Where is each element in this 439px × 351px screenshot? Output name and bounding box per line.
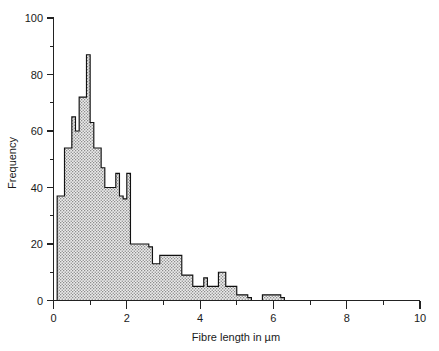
x-tick-label-8: 8 [344, 312, 350, 324]
x-tick-label-10: 10 [414, 312, 426, 324]
y-tick-label-0: 0 [37, 295, 43, 307]
x-tick-label-4: 4 [197, 312, 203, 324]
chart-svg: 020406080100 0246810 Fibre length in µm … [0, 0, 439, 351]
x-axis-label: Fibre length in µm [192, 331, 280, 343]
y-tick-label-100: 100 [25, 12, 43, 24]
x-tick-label-0: 0 [50, 312, 56, 324]
y-tick-label-60: 60 [31, 125, 43, 137]
x-tick-label-6: 6 [270, 312, 276, 324]
x-tick-label-2: 2 [124, 312, 130, 324]
y-axis-label: Frequency [6, 137, 18, 189]
y-tick-label-40: 40 [31, 182, 43, 194]
y-tick-label-80: 80 [31, 69, 43, 81]
histogram-chart: 020406080100 0246810 Fibre length in µm … [0, 0, 439, 351]
y-tick-label-20: 20 [31, 238, 43, 250]
